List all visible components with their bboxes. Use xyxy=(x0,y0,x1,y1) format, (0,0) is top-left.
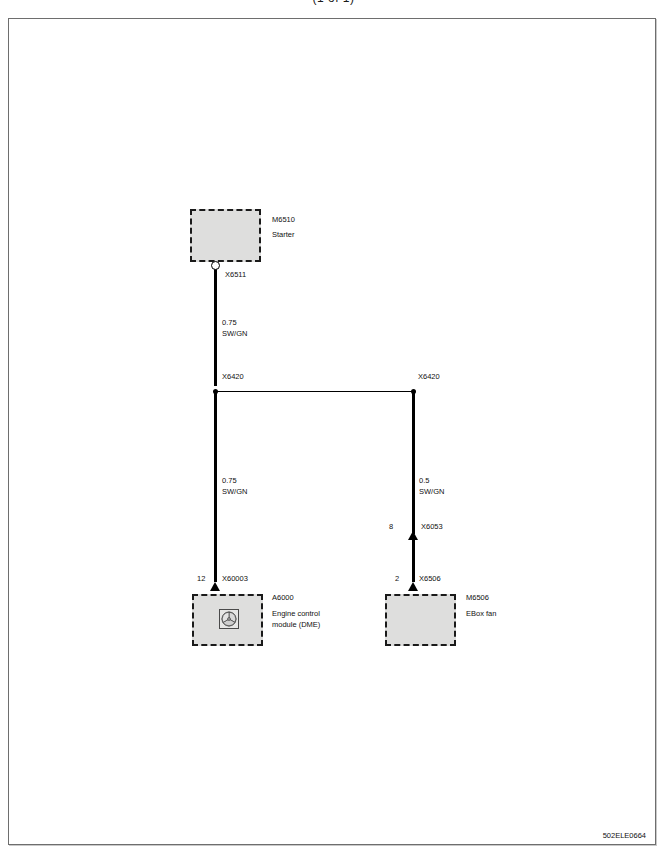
label-connector-x60003: X60003 xyxy=(222,574,248,585)
wire-junction-to-dme xyxy=(214,390,217,582)
wiring-diagram: M6510 Starter A6000 Engine control modul… xyxy=(0,0,667,854)
label-wire-color-dme: SW/GN xyxy=(222,487,247,498)
fan-motor-icon xyxy=(219,609,239,629)
label-ebox-fan-id: M6506 xyxy=(466,593,489,604)
wire-starter-to-junction xyxy=(214,268,217,386)
label-starter-id: M6510 xyxy=(272,215,295,226)
wire-junction-bus xyxy=(215,391,413,392)
label-connector-x6053: X6053 xyxy=(421,522,443,533)
label-wire-size-dme: 0.75 xyxy=(222,476,237,487)
label-wire-color-starter: SW/GN xyxy=(222,329,247,340)
label-dme-name-line2: module (DME) xyxy=(272,620,320,629)
junction-dot-right xyxy=(411,389,416,394)
label-junction-x6420-left: X6420 xyxy=(222,372,244,383)
document-code: 502ELE0664 xyxy=(546,831,646,840)
label-dme-name: Engine control module (DME) xyxy=(272,609,320,630)
wire-x6053-to-ebox-fan xyxy=(412,540,415,582)
component-box-ebox-fan[interactable] xyxy=(385,594,456,646)
component-box-starter[interactable] xyxy=(190,209,261,262)
wire-junction-to-x6053 xyxy=(412,390,415,534)
label-pin-number-x6506: 2 xyxy=(395,574,399,585)
label-wire-color-ebox-fan: SW/GN xyxy=(419,487,444,498)
label-connector-x6511: X6511 xyxy=(225,270,246,281)
junction-dot-left xyxy=(213,389,218,394)
label-connector-x6506: X6506 xyxy=(419,574,441,585)
label-starter-name: Starter xyxy=(272,230,295,241)
connector-arrow-icon-x6506[interactable] xyxy=(408,582,418,591)
label-wire-size-ebox-fan: 0.5 xyxy=(419,476,429,487)
label-dme-name-line1: Engine control xyxy=(272,609,320,618)
label-pin-number-x6053: 8 xyxy=(389,522,393,533)
connector-ring-icon-x6511[interactable] xyxy=(211,261,220,270)
label-wire-size-starter: 0.75 xyxy=(222,318,237,329)
label-pin-number-x60003: 12 xyxy=(197,574,205,585)
connector-arrow-icon-x6053[interactable] xyxy=(408,531,418,540)
label-ebox-fan-name: EBox fan xyxy=(466,609,496,620)
label-junction-x6420-right: X6420 xyxy=(418,372,440,383)
connector-arrow-icon-x60003[interactable] xyxy=(210,582,220,591)
label-dme-id: A6000 xyxy=(272,593,294,604)
